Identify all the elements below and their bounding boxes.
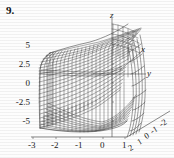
z-tick-0: 0	[4, 79, 30, 88]
z-tick-neg-5: -5	[2, 117, 30, 126]
z-tick-5: 5	[4, 41, 30, 50]
z-tick-neg-2-5: -2.5	[2, 98, 30, 107]
x-tick-neg-1: -1	[75, 141, 83, 150]
surface-crease-shading	[40, 66, 123, 76]
y-axis-label: y	[147, 69, 151, 78]
x-tick-neg-2: -2	[51, 141, 59, 150]
z-tick-2-5: 2.5	[4, 60, 30, 69]
z-axis-label: z	[110, 11, 114, 20]
x-tick-0: 0	[100, 141, 105, 150]
surface-mesh	[39, 24, 146, 137]
x-tick-neg-3: -3	[28, 141, 36, 150]
figure-container: 9.	[0, 0, 174, 158]
x-axis-label: x	[141, 45, 145, 54]
